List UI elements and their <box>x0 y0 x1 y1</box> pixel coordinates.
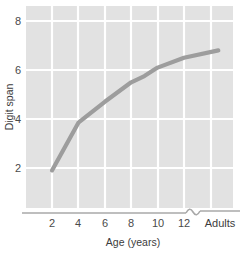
y-axis-title: Digit span <box>3 84 15 131</box>
chart-figure: 8 6 4 2 2 4 6 8 10 12 Adults Age (years)… <box>0 0 246 257</box>
x-axis-title: Age (years) <box>106 236 160 248</box>
y-tick-label-6: 6 <box>15 64 21 76</box>
x-tick-label-6: 6 <box>102 217 108 229</box>
x-tick-label-adults: Adults <box>205 217 236 229</box>
x-tick-label-12: 12 <box>178 217 190 229</box>
digit-span-line-chart: 8 6 4 2 2 4 6 8 10 12 Adults Age (years)… <box>0 0 246 257</box>
x-tick-label-8: 8 <box>128 217 134 229</box>
x-tick-label-10: 10 <box>152 217 164 229</box>
y-tick-label-8: 8 <box>15 15 21 27</box>
x-tick-label-4: 4 <box>75 217 81 229</box>
plot-area-background <box>26 6 233 208</box>
x-tick-label-2: 2 <box>49 217 55 229</box>
y-tick-label-4: 4 <box>15 113 21 125</box>
y-tick-label-2: 2 <box>15 162 21 174</box>
